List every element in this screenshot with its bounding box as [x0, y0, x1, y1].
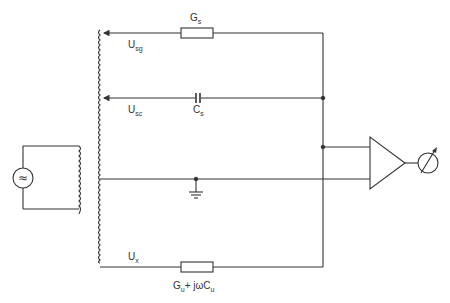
impedance-gu-icon: [181, 262, 213, 272]
label-usg: Usg: [128, 40, 143, 52]
amplifier-icon: [370, 137, 405, 189]
primary-coil: [79, 146, 81, 214]
label-usc: Usc: [128, 105, 142, 117]
label-gu-cu: Gu+ jωCu: [173, 281, 214, 293]
ac-source-loop: [23, 146, 79, 209]
label-gs: Gs: [190, 13, 201, 25]
label-ux: Ux: [128, 252, 139, 264]
ac-symbol: ≈: [18, 171, 28, 185]
label-cs: Cs: [193, 105, 204, 117]
resistor-gs-icon: [181, 28, 213, 38]
secondary-coil: [99, 30, 101, 263]
circuit-diagram: ≈: [0, 0, 450, 303]
meter-icon: [418, 153, 438, 173]
